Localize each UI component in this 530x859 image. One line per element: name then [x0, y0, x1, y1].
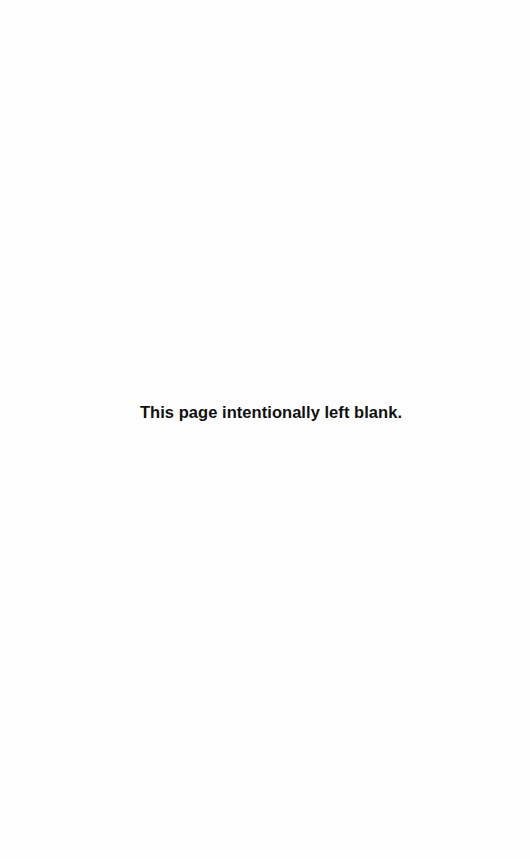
blank-page-notice: This page intentionally left blank. [0, 403, 530, 422]
document-page: This page intentionally left blank. [0, 0, 530, 859]
